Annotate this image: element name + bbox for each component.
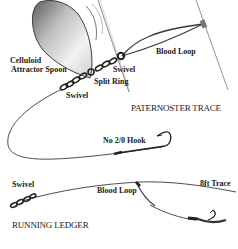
paternoster-trace-line — [8, 90, 162, 159]
label-ledger-blood-loop: Blood Loop — [97, 187, 137, 195]
title-running-ledger: RUNNING LEDGER — [12, 221, 88, 230]
title-paternoster-trace: PATERNOSTER TRACE — [131, 104, 221, 113]
label-8ft-trace: 8ft Trace — [200, 180, 231, 188]
main-line-paternoster — [196, 0, 228, 90]
tackle-diagram — [0, 0, 238, 249]
ledger-blood-loop-icon — [136, 182, 155, 206]
label-spoon-line2: Attractor Spoon — [11, 66, 67, 74]
label-blood-loop: Blood Loop — [156, 48, 196, 56]
label-split-ring: Split Ring — [94, 78, 128, 86]
label-swivel-lower: Swivel — [66, 92, 88, 100]
label-swivel-upper: Swivel — [113, 66, 135, 74]
ledger-swivel-icon — [10, 193, 36, 208]
label-hook: No 2/0 Hook — [103, 137, 146, 145]
ledger-hook-icon — [188, 210, 226, 222]
label-spoon-line1: Celluloid — [10, 57, 41, 65]
label-ledger-swivel: Swivel — [12, 181, 34, 189]
